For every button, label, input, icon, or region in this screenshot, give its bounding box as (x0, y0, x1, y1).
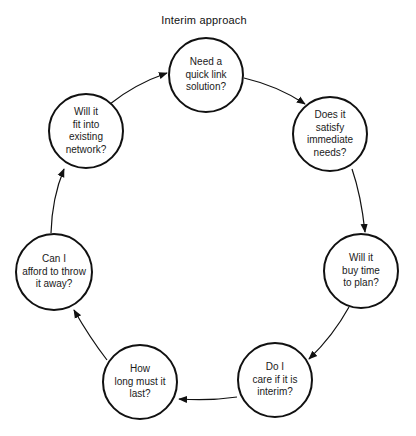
node-care-if-interim: Do I care if it is interim? (237, 342, 313, 418)
node-label: Will it buy time to plan? (342, 252, 380, 290)
node-buy-time-to-plan: Will it buy time to plan? (323, 233, 399, 309)
arrow-existing-network-to-quick-link (110, 73, 167, 104)
node-label: Need a quick link solution? (185, 56, 226, 94)
node-satisfy-immediate-needs: Does it satisfy immediate needs? (292, 96, 368, 172)
arrow-throw-away-to-existing-network (51, 169, 64, 233)
node-label: Can I afford to throw it away? (22, 253, 86, 291)
node-quick-link-solution: Need a quick link solution? (168, 37, 244, 113)
node-afford-to-throw-away: Can I afford to throw it away? (15, 233, 93, 311)
arrow-care-interim-to-how-long (179, 397, 237, 400)
arrow-immediate-needs-to-buy-time (352, 169, 365, 232)
arrow-how-long-to-throw-away (74, 310, 107, 360)
node-label: Do I care if it is interim? (252, 361, 297, 399)
node-how-long-must-it-last: How long must it last? (102, 344, 178, 420)
node-fit-existing-network: Will it fit into existing network? (48, 93, 124, 169)
node-label: How long must it last? (114, 363, 165, 401)
node-label: Will it fit into existing network? (66, 106, 107, 156)
arrow-buy-time-to-care-interim (309, 307, 349, 359)
arrow-quick-link-to-immediate-needs (244, 78, 305, 104)
node-label: Does it satisfy immediate needs? (307, 109, 353, 159)
